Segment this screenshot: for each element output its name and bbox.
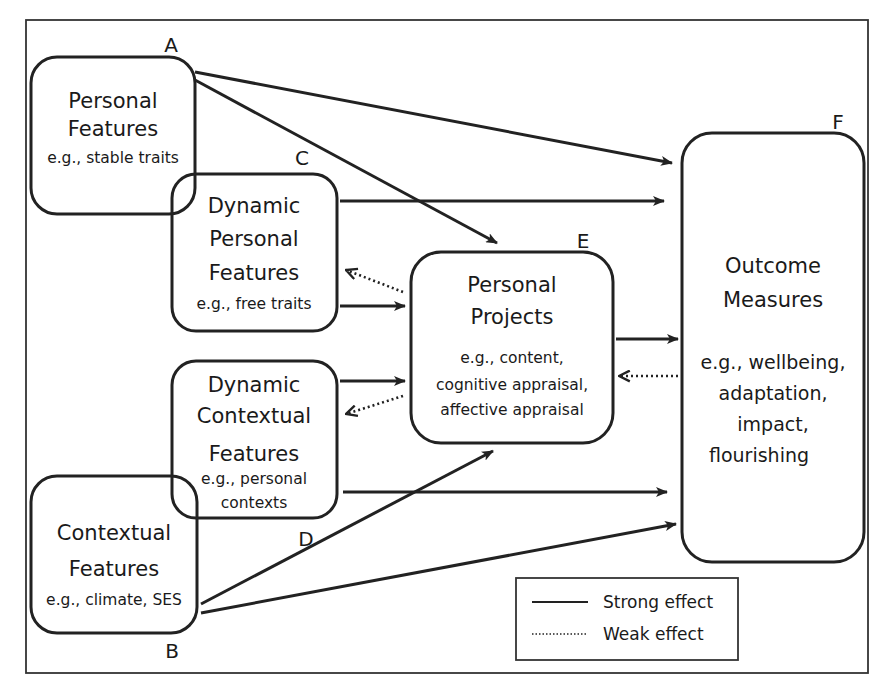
node-personal-features: A Personal Features e.g., stable traits [31, 33, 195, 214]
node-example-line: adaptation, [719, 382, 828, 404]
legend-weak-label: Weak effect [603, 624, 704, 644]
node-example-line: e.g., content, [460, 349, 563, 367]
node-title-line: Dynamic [208, 194, 301, 218]
node-letter-a: A [164, 33, 178, 57]
node-example-line: e.g., climate, SES [46, 591, 182, 609]
node-example-line: e.g., stable traits [47, 149, 179, 167]
node-example-line: impact, [737, 413, 808, 435]
node-title-line: Features [68, 117, 158, 141]
node-title-line: Contextual [57, 521, 171, 545]
node-title-line: Contextual [197, 404, 311, 428]
node-example-line: affective appraisal [440, 401, 584, 419]
legend-box [516, 578, 738, 660]
node-example-line: e.g., free traits [197, 295, 312, 313]
node-outcome-measures: F Outcome Measures e.g., wellbeing, adap… [682, 110, 864, 562]
diagram-canvas: A Personal Features e.g., stable traits … [0, 0, 893, 699]
edge-e-to-c-weak [346, 270, 403, 292]
node-title-line: Personal [467, 273, 556, 297]
node-letter-b: B [165, 639, 179, 663]
node-title-line: Personal [209, 227, 298, 251]
legend: Strong effect Weak effect [516, 578, 738, 660]
node-title-line: Dynamic [208, 373, 301, 397]
node-title-line: Measures [723, 288, 823, 312]
edge-e-to-d-weak [346, 396, 403, 414]
node-personal-projects: E Personal Projects e.g., content, cogni… [411, 229, 613, 443]
node-example-line: e.g., personal [201, 470, 307, 488]
node-example-line: cognitive appraisal, [436, 376, 588, 394]
node-dynamic-personal-features: C Dynamic Personal Features e.g., free t… [172, 146, 337, 331]
node-title-line: Features [209, 442, 299, 466]
legend-strong-label: Strong effect [603, 592, 713, 612]
node-letter-f: F [832, 110, 844, 134]
node-letter-c: C [295, 146, 309, 170]
node-title-line: Features [69, 557, 159, 581]
node-letter-e: E [577, 229, 590, 253]
node-example-line: contexts [221, 494, 288, 512]
node-contextual-features: B Contextual Features e.g., climate, SES [31, 476, 197, 663]
node-title-line: Outcome [725, 254, 821, 278]
node-example-line: e.g., wellbeing, [701, 351, 846, 373]
node-example-line: flourishing [709, 444, 809, 466]
node-title-line: Projects [471, 305, 554, 329]
node-title-line: Features [209, 261, 299, 285]
node-title-line: Personal [68, 89, 157, 113]
